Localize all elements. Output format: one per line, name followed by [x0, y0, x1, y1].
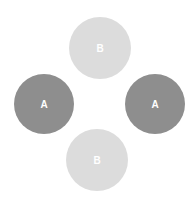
circle-b-bottom: B — [66, 129, 128, 191]
circle-b-top: B — [69, 17, 131, 79]
circle-label: A — [151, 99, 158, 110]
circle-a-right: A — [125, 74, 185, 134]
circle-label: A — [40, 99, 47, 110]
circle-a-left: A — [14, 74, 74, 134]
circle-label: B — [96, 43, 103, 54]
circle-label: B — [93, 155, 100, 166]
